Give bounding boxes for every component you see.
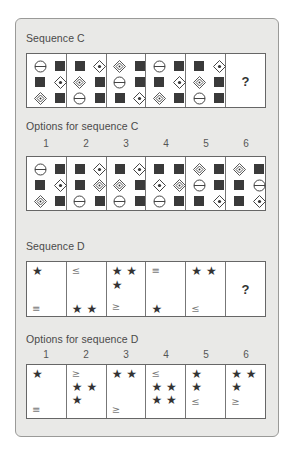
- square-icon: [212, 75, 226, 89]
- star-icon: ★: [72, 394, 83, 406]
- operator-symbol: ≥: [112, 301, 120, 313]
- cell-6: ★ ★★≥: [226, 365, 265, 418]
- option-number-6: 6: [226, 349, 266, 360]
- square-icon: [73, 162, 87, 176]
- operator-symbol: ≤: [72, 265, 80, 277]
- sequence-d-title: Sequence D: [26, 240, 85, 252]
- cell-1: [27, 54, 67, 107]
- diamond-dot-icon: [172, 75, 186, 89]
- cell-4: [146, 157, 186, 210]
- square-icon: [93, 91, 107, 105]
- diamond-dot-icon: [133, 162, 147, 176]
- diamond-nested-icon: [33, 194, 47, 208]
- cell-1: [27, 157, 67, 210]
- star-icon: ★ ★: [112, 368, 137, 380]
- cell-1: ★≡: [27, 365, 67, 418]
- cell-2: [67, 54, 107, 107]
- star-icon: ★ ★: [151, 381, 176, 393]
- square-icon: [133, 178, 147, 192]
- diamond-dot-icon: [152, 178, 166, 192]
- diamond-nested-icon: [113, 59, 127, 73]
- option-number-5: 5: [186, 349, 226, 360]
- diamond-nested-icon: [192, 75, 206, 89]
- diamond-dot-icon: [212, 59, 226, 73]
- diamond-dot-icon: [212, 194, 226, 208]
- square-icon: [113, 91, 127, 105]
- square-icon: [73, 178, 87, 192]
- diamond-nested-icon: [113, 178, 127, 192]
- diamond-nested-icon: [232, 162, 246, 176]
- option-number-3: 3: [106, 138, 146, 149]
- circle-bar-icon: [73, 91, 87, 105]
- cell-2: ≤★ ★: [67, 262, 107, 316]
- star-icon: ★: [191, 368, 202, 380]
- cell-2: [67, 157, 107, 210]
- star-icon: ★ ★: [151, 394, 176, 406]
- circle-bar-icon: [113, 194, 127, 208]
- star-icon: ★: [151, 303, 162, 315]
- option-number-3: 3: [106, 349, 146, 360]
- circle-bar-icon: [113, 75, 127, 89]
- circle-bar-icon: [152, 194, 166, 208]
- operator-symbol: ≡: [151, 265, 159, 277]
- square-icon: [172, 194, 186, 208]
- options-d-title: Options for sequence D: [26, 333, 139, 345]
- sequence-c-row: ?: [26, 53, 266, 108]
- star-icon: ★: [112, 279, 123, 291]
- diamond-nested-icon: [192, 162, 206, 176]
- cell-3: ★ ★≥: [107, 365, 147, 418]
- options-c-row: [26, 156, 266, 211]
- diamond-dot-icon: [252, 194, 266, 208]
- diamond-nested-icon: [33, 91, 47, 105]
- square-icon: [53, 91, 67, 105]
- diamond-dot-icon: [93, 59, 107, 73]
- cell-5: [186, 54, 226, 107]
- operator-symbol: ≤: [151, 368, 159, 380]
- star-icon: ★ ★: [231, 368, 256, 380]
- square-icon: [252, 162, 266, 176]
- star-icon: ★: [32, 265, 43, 277]
- square-icon: [133, 75, 147, 89]
- sequence-d-row: ★≡≤★ ★★ ★★≥≡★★ ★≤?: [26, 261, 266, 317]
- cell-3: [107, 157, 147, 210]
- diamond-nested-icon: [93, 178, 107, 192]
- square-icon: [212, 91, 226, 105]
- diamond-dot-icon: [133, 91, 147, 105]
- square-icon: [152, 75, 166, 89]
- square-icon: [53, 194, 67, 208]
- square-icon: [73, 59, 87, 73]
- square-icon: [232, 194, 246, 208]
- square-icon: [133, 59, 147, 73]
- diamond-dot-icon: [53, 178, 67, 192]
- diamond-dot-icon: [93, 162, 107, 176]
- star-icon: ★ ★: [112, 265, 137, 277]
- option-number-4: 4: [146, 349, 186, 360]
- circle-bar-icon: [192, 178, 206, 192]
- options-c-title: Options for sequence C: [26, 120, 139, 132]
- cell-4: ≤★ ★★ ★: [146, 365, 186, 418]
- options-c-numbers: 123456: [26, 138, 266, 149]
- circle-bar-icon: [192, 91, 206, 105]
- square-icon: [232, 178, 246, 192]
- square-icon: [113, 162, 127, 176]
- options-d-numbers: 123456: [26, 349, 266, 360]
- square-icon: [212, 162, 226, 176]
- square-icon: [93, 75, 107, 89]
- cell-2: ≥★ ★★: [67, 365, 107, 418]
- question-mark: ?: [226, 73, 265, 88]
- option-number-1: 1: [26, 349, 66, 360]
- circle-bar-icon: [152, 59, 166, 73]
- star-icon: ★ ★: [72, 303, 97, 315]
- circle-bar-icon: [73, 194, 87, 208]
- star-icon: ★: [32, 368, 43, 380]
- star-icon: ★ ★: [72, 381, 97, 393]
- option-number-6: 6: [226, 138, 266, 149]
- cell-3: ★ ★★≥: [107, 262, 147, 316]
- cell-5: ★ ★≤: [186, 262, 226, 316]
- square-icon: [53, 162, 67, 176]
- operator-symbol: ≡: [32, 404, 40, 416]
- operator-symbol: ≥: [112, 404, 120, 416]
- circle-bar-icon: [33, 162, 47, 176]
- operator-symbol: ≡: [32, 303, 40, 315]
- star-icon: ★ ★: [191, 265, 216, 277]
